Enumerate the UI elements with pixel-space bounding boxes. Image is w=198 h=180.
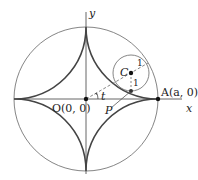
origin-dot	[84, 97, 88, 101]
angle-t-label: t	[101, 90, 106, 103]
tangent-point-dot	[129, 89, 133, 93]
astroid-diagram: y x O(0, 0) A(a, 0) C P t 1 1	[0, 0, 198, 180]
origin-label: O(0, 0)	[52, 102, 91, 115]
x-axis-label: x	[186, 102, 193, 115]
point-a-dot	[156, 97, 160, 101]
point-a-label: A(a, 0)	[160, 86, 198, 99]
center-c-label: C	[120, 66, 129, 79]
center-c-dot	[129, 71, 133, 75]
radius-label-lower: 1	[133, 78, 139, 88]
y-axis-label: y	[88, 7, 96, 20]
point-p-label: P	[104, 104, 113, 117]
radius-label-upper: 1	[137, 58, 143, 68]
